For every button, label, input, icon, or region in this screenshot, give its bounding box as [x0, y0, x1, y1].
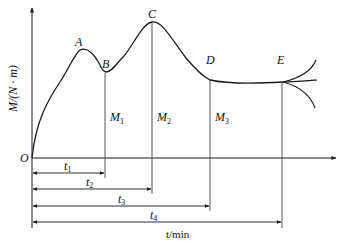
branch-down — [283, 82, 315, 108]
torque-curve — [32, 22, 283, 158]
point-label-E: E — [276, 53, 285, 67]
point-label-B: B — [102, 57, 110, 71]
interval-label-t1: t1 — [64, 159, 71, 174]
point-label-C: C — [148, 7, 157, 21]
interval-label-t4: t4 — [150, 208, 157, 223]
marker-label-M1: M1 — [109, 110, 124, 126]
torque-time-diagram: O M/(N · m) t/min A B C D E M1 M2 M3 t1 … — [0, 0, 346, 243]
branch-up — [283, 60, 316, 82]
y-axis-label: M/(N · m) — [6, 65, 20, 113]
point-label-D: D — [205, 53, 215, 67]
x-axis-label: t/min — [166, 228, 190, 240]
origin-label: O — [20, 151, 29, 165]
interval-label-t2: t2 — [86, 175, 93, 190]
marker-label-M3: M3 — [214, 110, 229, 126]
marker-label-M2: M2 — [156, 110, 171, 126]
interval-label-t3: t3 — [118, 192, 125, 207]
point-label-A: A — [74, 35, 83, 49]
